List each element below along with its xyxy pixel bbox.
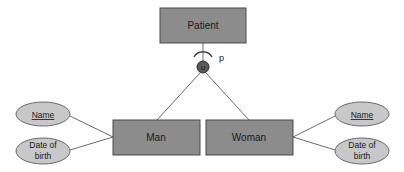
attribute-man-dob-line1: Date of [29,140,57,150]
attribute-woman-dob-line1: Date of [348,140,376,150]
attribute-man-dob-line2: birth [35,151,52,161]
entity-patient[interactable]: Patient [160,8,246,43]
union-circle: u [197,61,209,73]
entity-woman[interactable]: Woman [206,120,293,155]
er-diagram: Patient p u Man Woman Name Date of birth… [0,0,404,172]
union-to-woman-line [206,73,249,120]
attribute-man-name[interactable]: Name [16,102,70,126]
union-symbol: u [201,63,205,72]
man-to-name-line [70,116,113,137]
entity-man[interactable]: Man [113,120,200,155]
attribute-woman-dob[interactable]: Date of birth [335,138,389,164]
entity-woman-label: Woman [232,132,266,143]
attribute-woman-name-label: Name [351,110,374,120]
union-to-man-line [157,73,200,120]
constraint-label: p [219,53,224,63]
entity-patient-label: Patient [187,20,218,31]
woman-to-dob-line [293,137,335,150]
entity-man-label: Man [146,132,165,143]
man-to-dob-line [70,137,113,150]
attribute-woman-dob-line2: birth [354,151,371,161]
attribute-woman-name[interactable]: Name [335,102,389,126]
woman-to-name-line [293,116,335,137]
connectors [70,43,335,150]
attribute-man-name-label: Name [32,110,55,120]
attribute-man-dob[interactable]: Date of birth [16,138,70,164]
